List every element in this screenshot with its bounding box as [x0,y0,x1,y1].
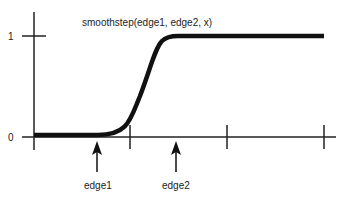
smoothstep-diagram: smoothstep(edge1, edge2, x) 1 0 edge1 ed… [0,0,350,203]
y-label-zero: 0 [8,132,14,143]
y-label-one: 1 [8,31,14,42]
edge2-label: edge2 [162,180,190,191]
edge1-label: edge1 [84,180,112,191]
chart-title: smoothstep(edge1, edge2, x) [82,17,212,28]
smoothstep-curve [34,36,324,135]
